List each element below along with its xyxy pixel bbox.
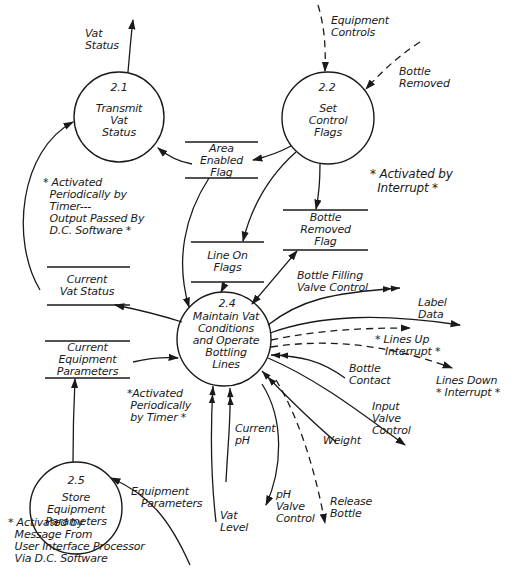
flow-label-vat-status: Vat Status <box>85 28 119 52</box>
flow-label-vat-level: Vat Level <box>220 510 248 534</box>
process-2-4-name: Maintain Vat Conditions and Operate Bott… <box>178 311 274 371</box>
flow-label-ph-valve-control: pH Valve Control <box>276 489 315 525</box>
flow-vat-level <box>211 386 216 522</box>
store-current-vat-status-label: Current Vat Status <box>44 274 130 298</box>
flow-vat-status <box>128 20 133 72</box>
flow-label-lines-down-interrupt: Lines Down * Interrupt * <box>436 375 500 399</box>
flow-22-to-area-enabled <box>253 146 291 160</box>
flow-equipment-controls <box>318 5 325 71</box>
flow-24-to-current-vat-status <box>115 305 182 322</box>
store-area-enabled-flag-label: Area Enabled Flag <box>185 143 258 179</box>
annotation-activated-periodically-by-timer: *Activated Periodically by Timer * <box>127 388 191 424</box>
flow-label-lines-up-interrupt: * Lines Up Interrupt * <box>375 334 440 358</box>
process-2-4-id: 2.4 <box>212 298 242 310</box>
store-current-equipment-parameters-label: Current Equipment Parameters <box>45 342 130 378</box>
flow-label-weight: Weight <box>323 435 361 447</box>
flow-bottle-contact <box>271 355 345 378</box>
flow-label-equipment-controls: Equipment Controls <box>331 15 389 39</box>
flow-label-bottle-contact: Bottle Contact <box>349 363 390 387</box>
data-flow-diagram: 2.1 Transmit Vat Status 2.2 Set Control … <box>0 0 514 577</box>
store-line-on-flags-label: Line On Flags <box>191 250 264 274</box>
annotation-activated-by-message: * Activated by Message From User Interfa… <box>8 517 145 565</box>
flow-label-release-bottle: Release Bottle <box>330 496 372 520</box>
flow-label-label-data: Label Data <box>418 297 447 321</box>
process-2-1-name: Transmit Vat Status <box>79 103 159 139</box>
flow-label-equipment-parameters: Equipment Parameters <box>131 486 202 510</box>
flow-22-to-bottle-removed-flag <box>316 164 320 209</box>
flow-label-bottle-removed: Bottle Removed <box>399 66 450 90</box>
flow-equip-params-to-24 <box>133 358 178 362</box>
flow-current-ph <box>226 388 230 482</box>
flow-label-current-ph: Current pH <box>235 423 275 447</box>
flow-25-to-equip-params <box>73 379 75 462</box>
process-2-2-name: Set Control Flags <box>288 103 368 139</box>
annotation-activated-periodically-output-passed: * Activated Periodically by Timer--- Out… <box>43 177 144 237</box>
flow-line-on-to-24 <box>221 282 224 292</box>
store-bottle-removed-flag-label: Bottle Removed Flag <box>283 212 368 248</box>
flow-label-input-valve-control: Input Valve Control <box>372 401 411 437</box>
flow-label-bottle-filling-valve-control: Bottle Filling Valve Control <box>297 270 368 294</box>
annotation-activated-by-interrupt: * Activated by Interrupt * <box>370 167 453 195</box>
process-2-1-id: 2.1 <box>104 82 134 94</box>
process-2-2-id: 2.2 <box>312 82 342 94</box>
process-2-5-id: 2.5 <box>61 475 91 487</box>
